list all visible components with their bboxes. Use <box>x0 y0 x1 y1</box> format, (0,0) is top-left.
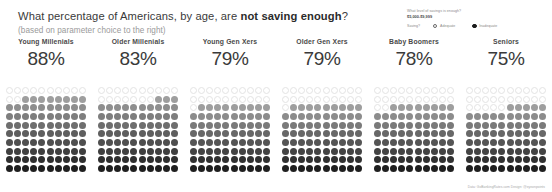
waffle-dot <box>214 148 221 155</box>
waffle-dot <box>206 122 213 129</box>
radio-option-inadequate[interactable]: Inadequate <box>472 24 497 28</box>
waffle-dot <box>147 165 154 172</box>
waffle-dot <box>147 113 154 120</box>
waffle-dot <box>206 130 213 137</box>
waffle-dot <box>22 130 29 137</box>
waffle-dot <box>290 156 297 163</box>
waffle-dot <box>139 87 146 94</box>
waffle-dot <box>347 87 354 94</box>
waffle-dot <box>55 96 62 103</box>
waffle-dot <box>439 130 446 137</box>
waffle-dot <box>122 130 129 137</box>
waffle-dot <box>122 96 129 103</box>
waffle-dot <box>474 96 481 103</box>
waffle-dot <box>515 156 522 163</box>
waffle-dot <box>423 122 430 129</box>
category-percentage: 79% <box>276 48 368 70</box>
waffle-dot <box>374 165 381 172</box>
waffle-dot <box>30 165 37 172</box>
waffle-dot <box>122 165 129 172</box>
waffle-dot <box>482 130 489 137</box>
waffle-dot <box>79 87 86 94</box>
category-column: Older Gen Xers 79% <box>276 38 368 70</box>
waffle-dot <box>415 165 422 172</box>
waffle-dot <box>498 165 505 172</box>
waffle-dot <box>198 104 205 111</box>
waffle-dot <box>374 122 381 129</box>
waffle-dot <box>30 96 37 103</box>
waffle-dot <box>114 113 121 120</box>
radio-icon-adequate[interactable] <box>433 24 437 28</box>
waffle-dot <box>531 165 538 172</box>
waffle-dot <box>382 104 389 111</box>
waffle-dot <box>290 165 297 172</box>
waffle-dot <box>30 130 37 137</box>
waffle-dot <box>255 139 262 146</box>
waffle-dot <box>431 96 438 103</box>
waffle-dot <box>482 87 489 94</box>
waffle-dot <box>323 104 330 111</box>
waffle-dot <box>423 104 430 111</box>
waffle-dot <box>130 148 137 155</box>
waffle-dot <box>198 130 205 137</box>
waffle-dot <box>331 104 338 111</box>
waffle-dot <box>106 104 113 111</box>
waffle-dot <box>147 139 154 146</box>
radio-icon-inadequate[interactable] <box>472 24 476 28</box>
waffle-dot <box>423 156 430 163</box>
waffle-dot <box>222 156 229 163</box>
waffle-dot <box>415 96 422 103</box>
waffle-dot <box>406 139 413 146</box>
radio-option-adequate[interactable]: Adequate <box>433 24 455 28</box>
waffle-dot <box>6 130 13 137</box>
waffle-dot <box>114 165 121 172</box>
waffle-dot <box>55 165 62 172</box>
waffle-dot <box>247 165 254 172</box>
waffle-dot <box>423 148 430 155</box>
waffle-dot <box>490 130 497 137</box>
waffle-grid-wrapper <box>368 86 460 173</box>
waffle-dot <box>290 87 297 94</box>
waffle-dot <box>398 148 405 155</box>
waffle-dot <box>406 104 413 111</box>
waffle-dot <box>14 156 21 163</box>
waffle-dot <box>482 165 489 172</box>
waffle-dot <box>6 87 13 94</box>
waffle-dot <box>447 96 454 103</box>
waffle-dot <box>171 165 178 172</box>
waffle-dot <box>531 156 538 163</box>
waffle-dot <box>214 87 221 94</box>
waffle-dot <box>171 96 178 103</box>
waffle-dot <box>6 96 13 103</box>
waffle-dot <box>306 113 313 120</box>
waffle-dot <box>374 130 381 137</box>
waffle-dot <box>331 156 338 163</box>
waffle-dot <box>406 156 413 163</box>
waffle-dot <box>339 87 346 94</box>
waffle-dot <box>523 156 530 163</box>
waffle-dot <box>339 139 346 146</box>
category-percentage: 79% <box>184 48 276 70</box>
waffle-dot <box>214 96 221 103</box>
waffle-dot <box>498 87 505 94</box>
waffle-dot <box>38 122 45 129</box>
waffle-dot <box>314 130 321 137</box>
waffle-dot <box>339 156 346 163</box>
waffle-dot <box>55 148 62 155</box>
waffle-dot <box>139 104 146 111</box>
waffle-dot <box>122 156 129 163</box>
waffle-dot <box>106 148 113 155</box>
waffle-dot <box>339 122 346 129</box>
infographic-canvas: What percentage of Americans, by age, ar… <box>0 0 552 192</box>
waffle-dot <box>339 148 346 155</box>
waffle-dot <box>339 96 346 103</box>
category-column: Seniors 75% <box>460 38 552 70</box>
waffle-dot <box>106 139 113 146</box>
waffle-dot <box>106 156 113 163</box>
waffle-dot <box>466 139 473 146</box>
waffle-dot <box>139 156 146 163</box>
waffle-dot <box>298 87 305 94</box>
waffle-dot <box>98 122 105 129</box>
waffle-dot <box>122 113 129 120</box>
waffle-dot <box>523 165 530 172</box>
